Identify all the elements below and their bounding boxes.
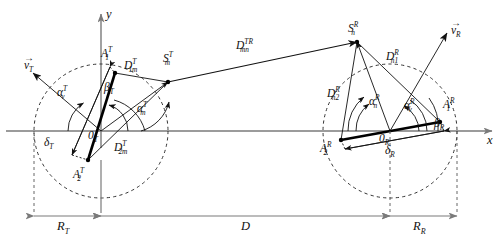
rx-d2-sub: n2 (332, 93, 339, 102)
rt-sub: T (65, 227, 69, 236)
figure-canvas: y x 0T AT1 AT2 STm DT1m DT2m αTv αTm βT … (0, 0, 504, 241)
tx-scatterer-label: STm (163, 51, 170, 66)
rx-spacing-label: δR (385, 145, 395, 159)
tx-origin-label: 0T (88, 130, 98, 144)
tx-delta-sub: T (49, 142, 53, 151)
rx-angle-velocity-label: αRv (404, 98, 412, 113)
tx-antenna2-label: AT2 (73, 167, 81, 182)
tx-spacing-label: δT (44, 137, 53, 151)
tx-beta-sub: T (110, 87, 114, 96)
rr-base: R (413, 219, 421, 233)
rx-velocity-label: → vR (451, 25, 461, 39)
tx-angle-array-label: βT (104, 82, 114, 96)
tx-a2-sub: 2 (77, 174, 81, 183)
tx-dist2-label: DT2m (114, 140, 127, 155)
tx-antenna1-label: AT1 (101, 46, 109, 61)
inter-scatterer-distance-label: DTRmn (236, 38, 249, 53)
rx-scatterer-label: SRn (348, 21, 355, 36)
rx-beta-sub: R (440, 123, 445, 132)
rx-v-sub: R (456, 30, 461, 39)
tx-av-sub: v (61, 92, 64, 101)
tx-d1-sub: 1m (128, 65, 137, 74)
tx-angle-scatter-label: αTm (137, 101, 145, 116)
inter-scatterer-link (168, 42, 357, 82)
y-axis-label: y (106, 8, 112, 21)
rx-delta-sub: R (390, 150, 395, 159)
tx-dist1-label: DT1m (124, 58, 137, 73)
tx-angle-velocity-label: αTv (57, 85, 64, 100)
tx-a1-sub: 1 (105, 53, 109, 62)
rx-a2-sub: 2 (324, 148, 328, 157)
rx-s-sub: n (351, 28, 355, 37)
rx-angle-scatter-label: αRn (369, 94, 377, 109)
rt-base: R (57, 219, 65, 233)
tx-s-sub: m (165, 58, 170, 67)
tx-radius-label: RT (57, 220, 69, 236)
rx-velocity-vector-arrow: → (451, 18, 461, 28)
dtr-sub: mn (240, 45, 249, 54)
x-axis-label: x (487, 134, 493, 147)
separation-label: D (241, 220, 250, 233)
rx-d1-sub: n1 (391, 56, 398, 65)
rx-radius-label: RR (413, 220, 426, 236)
rx-a1-sup: R (450, 96, 455, 105)
tx-velocity-vector-arrow: → (24, 53, 34, 63)
rr-sub: R (421, 227, 426, 236)
rx-dist2-label: DRn2 (327, 86, 339, 101)
tx-d2-sub: 2m (118, 147, 127, 156)
tx-velocity-label: → vT (24, 60, 33, 74)
tx-v-sub: T (29, 65, 33, 74)
rx-a1-sub: 1 (447, 104, 451, 113)
rx-antenna2-label: AR2 (320, 141, 327, 156)
rx-a2-sup: R (327, 140, 332, 149)
rx-antenna1-label: AR1 (443, 97, 450, 112)
rx-angle-array-label: βR (434, 118, 444, 132)
tx-am-sub: m (140, 108, 145, 117)
rx-an-sub: n (374, 101, 378, 110)
rx-dist1-label: DRn1 (386, 49, 398, 64)
tx-origin-sub: T (94, 135, 98, 144)
rx-av-sub: v (409, 105, 412, 114)
